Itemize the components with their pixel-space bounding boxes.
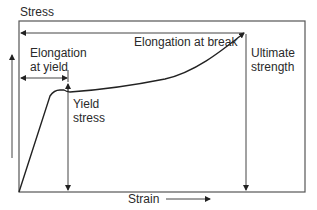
elongation-at-yield-label-line2: at yield <box>30 60 68 74</box>
elongation-at-yield-label-line1: Elongation <box>30 46 87 60</box>
elongation-at-break-label: Elongation at break <box>134 35 237 49</box>
x-axis-label: Strain <box>128 192 159 206</box>
yield-stress-label-line2: stress <box>73 111 105 125</box>
yield-stress-label-line1: Yield <box>73 97 99 111</box>
stress-strain-diagram <box>0 0 317 210</box>
ultimate-strength-label-line1: Ultimate <box>251 46 295 60</box>
y-axis-label: Stress <box>20 5 54 19</box>
ultimate-strength-label-line2: strength <box>251 60 294 74</box>
